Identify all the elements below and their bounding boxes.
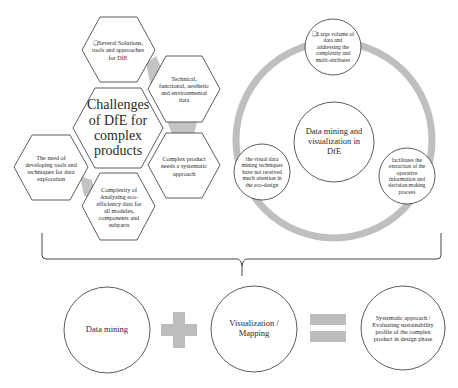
equals-icon [310,314,346,342]
plus-icon [161,312,197,348]
hex-several-solutions-label: ❑Several Solutions, tools and approaches… [92,28,144,72]
cycle-left-label: the visual data mining techniques have n… [240,152,284,192]
data-mining-label: Data mining [68,320,146,340]
hex-complex-product-label: Complex product needs a systematic appro… [158,144,210,188]
hex-need-tools-label: The need of developing tools and techniq… [24,146,78,190]
result-label: Systematic approach / Evaluating sustain… [370,298,436,358]
hex-challenges-center-label: Challenges of DfE for complex products [82,96,154,160]
cycle-center-label: Data mining and visualization in DfE [302,122,366,162]
hex-complexity-analyzing-label: Complexity of Analyzing eco-efficiency d… [93,182,145,232]
hex-technical-data-label: Technical, functional, aesthetic and env… [158,66,210,112]
cycle-top-label: ❑Large volume of data and addressing the… [311,28,355,66]
cycle-right-label: facilitates the extraction of the operat… [385,154,429,198]
visualization-label: Visualization / Mapping [218,316,290,342]
